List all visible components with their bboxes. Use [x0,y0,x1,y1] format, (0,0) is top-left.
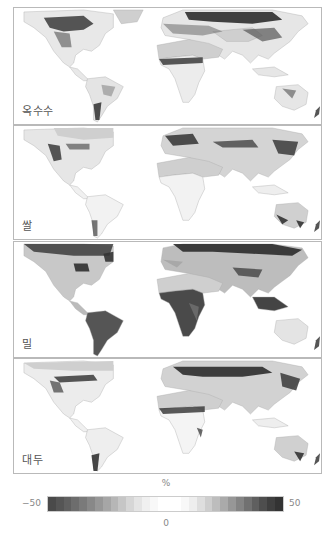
map-panel-rice: 쌀 [13,125,322,240]
colorbar [47,496,284,512]
colorbar-swatch [165,497,173,511]
colorbar-max-label: 50 [289,498,300,508]
colorbar-swatch [142,497,150,511]
colorbar-swatch [197,497,205,511]
colorbar-swatch [118,497,126,511]
colorbar-swatch [275,497,283,511]
colorbar-swatch [134,497,142,511]
world-map [14,126,321,239]
crop-label: 쌀 [22,217,33,233]
world-map [14,359,321,473]
colorbar-swatch [189,497,197,511]
colorbar-swatch [173,497,181,511]
world-map [14,8,321,124]
colorbar-min-label: −50 [22,498,41,508]
colorbar-swatch [48,497,56,511]
colorbar-swatch [212,497,220,511]
colorbar-swatch [236,497,244,511]
colorbar-swatch [56,497,64,511]
crop-label: 대두 [22,451,43,467]
colorbar-swatch [259,497,267,511]
crop-label: 밀 [22,335,33,351]
colorbar-swatch [87,497,95,511]
colorbar-swatch [220,497,228,511]
map-panel-soybean: 대두 [13,358,322,474]
world-map [14,242,321,357]
colorbar-swatch [95,497,103,511]
colorbar-swatch [205,497,213,511]
colorbar-swatch [71,497,79,511]
map-panel-wheat: 밀 [13,241,322,358]
colorbar-swatch [111,497,119,511]
colorbar-swatch [181,497,189,511]
colorbar-swatch [228,497,236,511]
colorbar-swatch [103,497,111,511]
colorbar-swatch [126,497,134,511]
colorbar-swatch [252,497,260,511]
colorbar-swatch [64,497,72,511]
colorbar-swatch [158,497,166,511]
map-panel-maize: 옥수수 [13,7,322,125]
colorbar-swatch [267,497,275,511]
colorbar-swatch [244,497,252,511]
colorbar-unit-label: % [159,478,173,488]
colorbar-swatch [150,497,158,511]
colorbar-mid-label: 0 [159,518,173,528]
crop-label: 옥수수 [22,102,54,118]
colorbar-swatch [79,497,87,511]
